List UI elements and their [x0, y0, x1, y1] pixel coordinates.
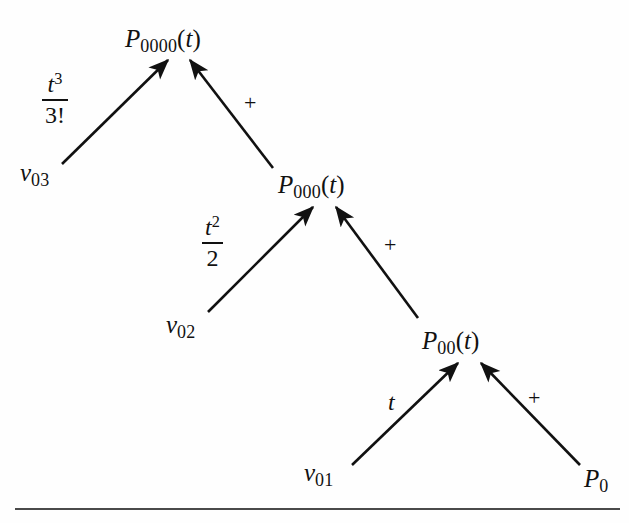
- operator-plus-bottom: +: [528, 387, 540, 409]
- node-p00: P00(t): [422, 328, 479, 357]
- arrow-v02-to-p000: [208, 207, 313, 312]
- node-p0000-subscript: 0000: [140, 36, 177, 56]
- leaf-v02-subscript: 02: [177, 322, 195, 342]
- node-p0-base: P: [584, 465, 599, 492]
- bottom-horizontal-rule: [15, 508, 620, 510]
- leaf-v01-subscript: 01: [315, 470, 333, 490]
- fraction-denominator: 2: [202, 245, 223, 272]
- arrow-p00-to-p000: [336, 207, 418, 318]
- leaf-v01-base: v: [304, 459, 315, 486]
- node-p000: P000(t): [278, 172, 345, 201]
- fraction-numerator: t3: [42, 70, 68, 98]
- leaf-v03: v03: [20, 160, 50, 189]
- node-p0000: P0000(t): [125, 26, 201, 55]
- operator-plus-top: +: [244, 92, 256, 114]
- leaf-v02: v02: [166, 312, 196, 341]
- diagram-arrows-layer: [0, 0, 629, 523]
- arrow-p000-to-p0000: [190, 60, 273, 168]
- arrow-v01-to-p00: [352, 363, 458, 465]
- edge-label-t3-over-3factorial: t3 3!: [42, 70, 68, 129]
- edge-label-t: t: [388, 390, 395, 414]
- arrow-p0-to-p00: [481, 363, 580, 465]
- node-p0: P0: [584, 466, 608, 495]
- operator-plus-middle: +: [384, 234, 396, 256]
- arrow-v03-to-p0000: [62, 60, 168, 164]
- node-p00-subscript: 00: [437, 338, 455, 358]
- node-p000-subscript: 000: [293, 182, 321, 202]
- node-p00-base: P: [422, 327, 437, 354]
- leaf-v02-base: v: [166, 311, 177, 338]
- node-p000-argument: (t): [321, 171, 345, 198]
- fraction-bar: [42, 99, 68, 101]
- diagram-canvas: P0000(t) P000(t) P00(t) P0 v03 v02 v01 t…: [0, 0, 629, 523]
- node-p00-argument: (t): [456, 327, 480, 354]
- leaf-v01: v01: [304, 460, 334, 489]
- node-p0000-base: P: [125, 25, 140, 52]
- leaf-v03-subscript: 03: [31, 170, 49, 190]
- node-p0000-argument: (t): [177, 25, 201, 52]
- fraction-denominator: 3!: [42, 102, 68, 129]
- node-p0-subscript: 0: [599, 476, 608, 496]
- node-p000-base: P: [278, 171, 293, 198]
- fraction-numerator: t2: [202, 213, 223, 241]
- edge-label-t2-over-2: t2 2: [202, 213, 223, 272]
- fraction-bar: [202, 242, 223, 244]
- leaf-v03-base: v: [20, 159, 31, 186]
